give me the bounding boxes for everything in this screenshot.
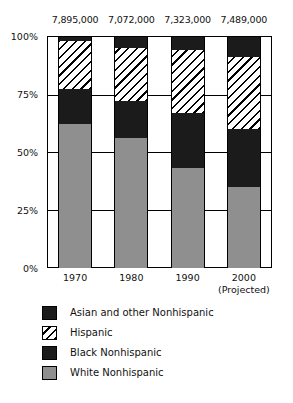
bar-segment-2000-asian-and-other-nonhispanic <box>228 36 260 57</box>
column-total-1980: 7,072,000 <box>103 14 159 32</box>
x-tick-1990: 1990 <box>160 272 216 296</box>
bar-1990[interactable] <box>171 36 205 268</box>
diagonal-hatch-swatch-icon <box>42 326 57 340</box>
column-total-2000: 7,489,000 <box>216 14 272 32</box>
x-axis-tick-labels: 1970 1980 1990 2000 (Projected) <box>47 272 272 296</box>
bar-segment-1970-black-nonhispanic <box>59 89 91 124</box>
legend-label: Asian and other Nonhispanic <box>70 307 214 318</box>
legend-item-asian-and-other-nonhispanic[interactable]: Asian and other Nonhispanic <box>42 303 282 322</box>
x-tick-2000-year: 2000 <box>232 272 256 283</box>
bar-segment-1990-white-nonhispanic <box>172 168 204 268</box>
y-axis-tick-labels: 100% 75% 50% 25% 0% <box>0 36 43 268</box>
chart-legend: Asian and other NonhispanicHispanicBlack… <box>42 303 282 383</box>
legend-label: Hispanic <box>70 327 113 338</box>
y-tick-0: 0% <box>23 263 38 274</box>
bar-slot-1980 <box>103 36 159 268</box>
column-total-1990: 7,323,000 <box>160 14 216 32</box>
legend-label: Black Nonhispanic <box>70 347 162 358</box>
column-total-1970: 7,895,000 <box>47 14 103 32</box>
solid-gray-swatch-icon <box>42 366 57 380</box>
legend-item-hispanic[interactable]: Hispanic <box>42 323 282 342</box>
solid-black-swatch-icon <box>42 346 57 360</box>
x-tick-2000: 2000 (Projected) <box>216 272 272 296</box>
legend-label: White Nonhispanic <box>70 367 164 378</box>
bar-segment-2000-white-nonhispanic <box>228 187 260 268</box>
y-tick-100: 100% <box>11 31 38 42</box>
bar-slot-2000 <box>216 36 272 268</box>
bar-segment-1990-asian-and-other-nonhispanic <box>172 36 204 50</box>
bar-1980[interactable] <box>114 36 148 268</box>
bar-segment-1980-hispanic <box>115 48 147 101</box>
bar-segment-1990-hispanic <box>172 50 204 113</box>
y-tick-25: 25% <box>17 205 38 216</box>
y-tick-50: 50% <box>17 147 38 158</box>
bar-slot-1990 <box>160 36 216 268</box>
x-tick-1980: 1980 <box>103 272 159 296</box>
bar-segment-1970-hispanic <box>59 41 91 90</box>
x-tick-2000-projected: (Projected) <box>216 284 272 296</box>
y-tick-75: 75% <box>17 89 38 100</box>
bar-slot-1970 <box>47 36 103 268</box>
bar-segment-2000-black-nonhispanic <box>228 129 260 187</box>
bar-segment-1970-white-nonhispanic <box>59 124 91 268</box>
legend-item-white-nonhispanic[interactable]: White Nonhispanic <box>42 363 282 382</box>
bar-1970[interactable] <box>58 36 92 268</box>
bar-segment-2000-hispanic <box>228 57 260 129</box>
solid-black-swatch-icon <box>42 306 57 320</box>
bar-2000[interactable] <box>227 36 261 268</box>
column-totals-row: 7,895,000 7,072,000 7,323,000 7,489,000 <box>47 14 272 32</box>
bar-segment-1980-asian-and-other-nonhispanic <box>115 36 147 48</box>
x-tick-1970: 1970 <box>47 272 103 296</box>
bars-layer <box>47 36 272 268</box>
bar-segment-1980-white-nonhispanic <box>115 138 147 268</box>
stacked-bar-chart: 7,895,000 7,072,000 7,323,000 7,489,000 … <box>0 0 293 300</box>
bar-segment-1980-black-nonhispanic <box>115 101 147 138</box>
legend-item-black-nonhispanic[interactable]: Black Nonhispanic <box>42 343 282 362</box>
bar-segment-1990-black-nonhispanic <box>172 113 204 169</box>
